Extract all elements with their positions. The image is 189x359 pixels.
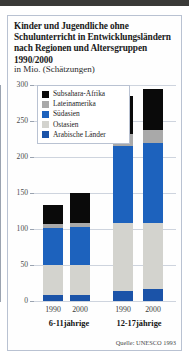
chart-subtitle: in Mio. (Schätzungen) (14, 64, 174, 74)
legend-label: Ostasien (53, 121, 78, 129)
legend-swatch-arabische-laender (42, 131, 49, 138)
bar-column (143, 89, 163, 301)
x-axis-label: 1990 (107, 305, 139, 314)
bar-segment (143, 289, 163, 301)
bar-segment (70, 193, 90, 223)
legend-label: Lateinamerika (53, 100, 96, 108)
bar-segment (143, 223, 163, 289)
y-axis-label: 0 (8, 296, 28, 305)
y-axis-label: 150 (8, 188, 28, 197)
y-tick (30, 265, 34, 266)
bar-segment (70, 295, 90, 301)
legend-item: Ostasien (42, 120, 125, 130)
y-axis-label: 50 (8, 260, 28, 269)
bar-segment (143, 89, 163, 130)
y-tick (30, 301, 34, 302)
legend-item: Lateinamerika (42, 99, 125, 109)
group-label-6-11: 6-11jährige (34, 319, 104, 328)
y-axis-label: 250 (8, 116, 28, 125)
x-axis-label: 2000 (64, 305, 96, 314)
y-tick (30, 85, 34, 86)
x-axis-label: 2000 (137, 305, 169, 314)
legend-swatch-ostasien (42, 121, 49, 128)
legend-swatch-subsahara-afrika (42, 91, 49, 98)
bar-segment (113, 223, 133, 291)
bar-segment (43, 295, 63, 301)
bar-column (70, 193, 90, 301)
bar-segment (143, 130, 163, 143)
legend-label: Subsahara-Afrika (53, 90, 105, 98)
legend-label: Arabische Länder (53, 131, 106, 139)
legend-swatch-suedasien (42, 111, 49, 118)
y-axis-line (0, 85, 1, 302)
legend-swatch-lateinamerika (42, 101, 49, 108)
bar-segment (43, 205, 63, 224)
bar-segment (43, 228, 63, 265)
y-tick (30, 193, 34, 194)
bar-segment (143, 143, 163, 224)
bar-segment (113, 291, 133, 301)
bar-segment (70, 265, 90, 295)
group-label-12-17: 12-17jährige (104, 319, 174, 328)
stacked-bar (143, 85, 163, 301)
y-tick (30, 229, 34, 230)
y-axis-label: 200 (8, 152, 28, 161)
legend-item: Subsahara-Afrika (42, 89, 125, 99)
bar-column (43, 205, 63, 301)
chart-title: Kinder und Jugendliche ohne Schulunterri… (14, 21, 174, 66)
bar-segment (70, 227, 90, 265)
source-note: Quelle: UNESCO 1993 (116, 339, 176, 346)
y-axis-label: 100 (8, 224, 28, 233)
y-axis-label: 300 (8, 80, 28, 89)
y-tick (30, 157, 34, 158)
legend-label: Südasien (53, 110, 80, 118)
legend-item: Südasien (42, 109, 125, 119)
page-top-gap (0, 6, 189, 14)
bar-segment (43, 265, 63, 295)
figure-root: Kinder und Jugendliche ohne Schulunterri… (0, 0, 189, 359)
legend-item: Arabische Länder (42, 130, 125, 140)
chart-legend: Subsahara-Afrika Lateinamerika Südasien … (37, 85, 130, 144)
gridline (34, 301, 176, 302)
y-tick (30, 121, 34, 122)
bar-segment (113, 146, 133, 222)
